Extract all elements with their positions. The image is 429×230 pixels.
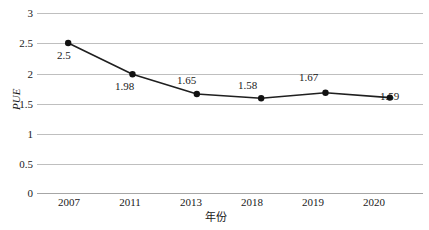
data-label-2011: 1.98 [115,80,134,92]
data-label-2013: 1.65 [177,74,196,86]
data-point-2007 [65,40,71,46]
x-tick-label-2020: 2020 [344,196,404,208]
data-label-2007: 2.5 [57,49,71,61]
data-point-2018 [258,95,264,101]
data-label-2019: 1.67 [299,71,318,83]
line-chart: 3 2.5 2 1.5 1 0.5 0 PUE 2.5 1.98 1.65 1.… [0,0,429,230]
data-label-2020: 1.59 [380,90,399,102]
data-point-2019 [322,90,328,96]
x-axis-title: 年份 [156,211,276,223]
x-tick-label-2018: 2018 [222,196,282,208]
series-markers [65,40,393,102]
x-tick-label-2007: 2007 [39,196,99,208]
data-point-2011 [129,71,135,77]
data-point-2013 [194,91,200,97]
x-tick-label-2013: 2013 [161,196,221,208]
x-tick-label-2011: 2011 [100,196,160,208]
data-label-2018: 1.58 [238,79,257,91]
x-tick-label-2019: 2019 [283,196,343,208]
